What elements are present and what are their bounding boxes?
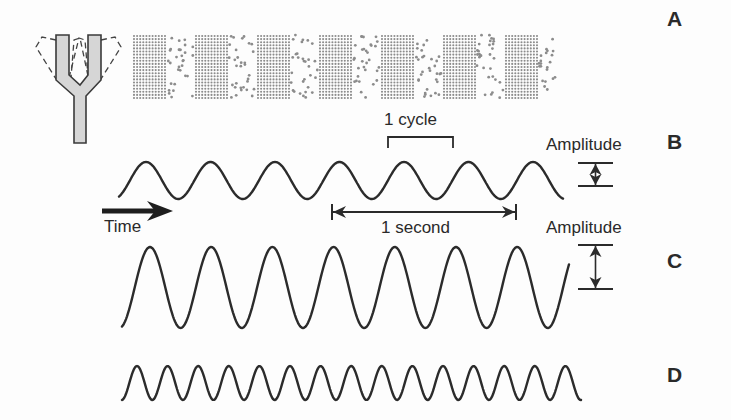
amplitude-c-marker-icon xyxy=(578,245,613,289)
wave-c-high-amplitude xyxy=(122,247,569,328)
amplitude-b-marker-icon xyxy=(578,163,613,186)
one-cycle-label: 1 cycle xyxy=(384,111,437,128)
wave-b-low-amplitude xyxy=(119,162,563,199)
diagram-canvas xyxy=(0,0,731,420)
one-second-label: 1 second xyxy=(381,219,450,236)
tuning-fork-icon xyxy=(36,35,121,143)
one-cycle-bracket xyxy=(388,137,453,148)
sound-wave-diagram: A B C D 1 cycle Amplitude Time 1 second … xyxy=(0,0,731,420)
panel-label-a: A xyxy=(667,8,682,29)
panel-label-b: B xyxy=(667,131,682,152)
time-label: Time xyxy=(104,218,141,235)
air-molecule-band xyxy=(133,34,556,99)
panel-label-d: D xyxy=(667,364,682,385)
amplitude-b-label: Amplitude xyxy=(546,136,622,153)
panel-label-c: C xyxy=(667,250,682,271)
wave-d-high-frequency xyxy=(122,366,581,400)
amplitude-c-label: Amplitude xyxy=(546,219,622,236)
